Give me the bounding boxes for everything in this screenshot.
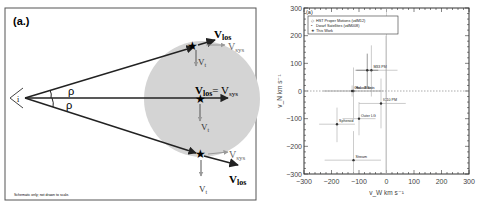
point-label: IC10 PM bbox=[383, 98, 397, 102]
schematic-panel: (a.) i ρ ρ ★ Vlos Vsys Vt ★ Vlos= Vsys V… bbox=[0, 0, 260, 207]
y-tick-label: 300 bbox=[290, 5, 302, 12]
legend-entry: This Work bbox=[316, 29, 333, 33]
y-tick-label: −200 bbox=[286, 143, 302, 150]
y-tick-label: 200 bbox=[290, 32, 302, 39]
y-tick-label: −100 bbox=[286, 115, 302, 122]
x-tick-label: 300 bbox=[463, 178, 475, 185]
y-tick-label: 0 bbox=[298, 88, 302, 95]
plot-panel-label: (a) bbox=[306, 9, 313, 15]
x-tick-label: −200 bbox=[324, 178, 340, 185]
x-tick-label: 100 bbox=[408, 178, 420, 185]
point-label: Outer LG bbox=[361, 114, 376, 118]
angle-rho-top: ρ bbox=[68, 85, 74, 97]
star-bottom-icon: ★ bbox=[195, 147, 206, 161]
panel-label: (a.) bbox=[13, 15, 30, 27]
legend-marker-icon: ★ bbox=[311, 28, 315, 33]
x-tick-label: 0 bbox=[385, 178, 389, 185]
point-label: M33 PM bbox=[373, 65, 386, 69]
point-label: Spheroid bbox=[339, 119, 353, 123]
x-tick-label: −100 bbox=[351, 178, 367, 185]
y-axis-label: v_N km s⁻¹ bbox=[276, 74, 284, 108]
y-tick-label: −300 bbox=[286, 171, 302, 178]
y-tick-label: 100 bbox=[290, 60, 302, 67]
x-axis-label: v_W km s⁻¹ bbox=[369, 189, 405, 197]
schematic-diagram: (a.) i ρ ρ ★ Vlos Vsys Vt ★ Vlos= Vsys V… bbox=[0, 0, 260, 207]
legend-entry: HST Proper Motions (vdM12) bbox=[316, 19, 366, 23]
velocity-scatter-plot: −300−200−10001002003003002001000−100−200… bbox=[260, 0, 484, 207]
x-tick-label: 200 bbox=[436, 178, 448, 185]
point-label: Stream bbox=[356, 155, 368, 159]
velocity-plot-panel: −300−200−10001002003003002001000−100−200… bbox=[260, 0, 484, 207]
footnote: Schematic only; not drawn to scale. bbox=[14, 193, 69, 197]
legend-entry: Dwarf Satellites (vdM008) bbox=[316, 24, 360, 28]
x-tick-label: −300 bbox=[296, 178, 312, 185]
angle-rho-bottom: ρ bbox=[66, 99, 72, 111]
